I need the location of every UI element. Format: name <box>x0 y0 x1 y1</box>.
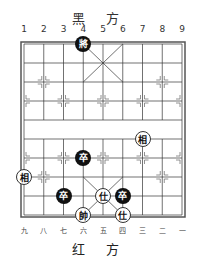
red-side-label: 红 方 <box>0 239 199 258</box>
file-numeral: 七 <box>58 225 70 235</box>
file-numeral: 三 <box>137 225 149 235</box>
file-numeral: 一 <box>176 225 188 235</box>
file-numeral: 五 <box>97 225 109 235</box>
file-numeral: 八 <box>38 225 50 235</box>
file-numeral: 四 <box>117 225 129 235</box>
file-numeral: 六 <box>77 225 89 235</box>
black-piece[interactable]: 卒 <box>56 188 72 204</box>
red-piece[interactable]: 相 <box>16 169 32 185</box>
file-numeral: 九 <box>18 225 30 235</box>
red-piece[interactable]: 仕 <box>95 188 111 204</box>
file-numeral: 二 <box>156 225 168 235</box>
red-piece[interactable]: 相 <box>135 131 151 147</box>
black-piece[interactable]: 卒 <box>115 188 131 204</box>
red-piece[interactable]: 仕 <box>115 207 131 223</box>
